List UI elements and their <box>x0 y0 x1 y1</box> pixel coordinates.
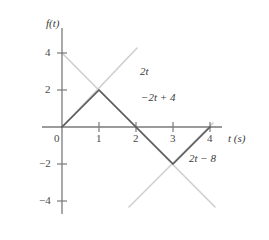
x-axis-label: t (s) <box>228 133 245 144</box>
x-tick-label-2: 2 <box>133 133 139 144</box>
y-tick-label-neg4: −4 <box>39 195 51 206</box>
y-axis-label: f(t) <box>46 18 59 29</box>
x-tick-label-4: 4 <box>207 133 213 144</box>
figure-canvas: f(t) t (s) 4 2 −2 −4 0 1 2 3 4 2t −2t + … <box>0 0 269 240</box>
origin-label: 0 <box>54 133 60 144</box>
x-tick-label-3: 3 <box>170 133 176 144</box>
x-tick-label-1: 1 <box>96 133 102 144</box>
y-tick-label-neg2: −2 <box>39 158 51 169</box>
curve-label-neg2t-plus-4: −2t + 4 <box>141 92 175 103</box>
curve-label-2t: 2t <box>140 66 149 77</box>
y-tick-label-4: 4 <box>45 47 51 58</box>
y-tick-label-2: 2 <box>45 84 51 95</box>
curve-label-2t-minus-8: 2t − 8 <box>189 153 216 164</box>
